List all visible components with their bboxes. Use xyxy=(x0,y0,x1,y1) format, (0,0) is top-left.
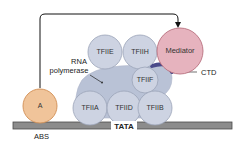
svg-text:TFIIE: TFIIE xyxy=(96,48,113,55)
svg-text:TFIIB: TFIIB xyxy=(146,104,163,111)
svg-text:TFIID: TFIID xyxy=(115,104,133,111)
tfiih-node: TFIIH xyxy=(123,35,157,69)
tfiid-node: TFIID xyxy=(107,91,141,125)
mediator-node: Mediator xyxy=(157,28,203,74)
svg-text:TFIIF: TFIIF xyxy=(137,76,154,83)
tfiib-node: TFIIB xyxy=(138,91,172,125)
rna-label-line2: polymerase xyxy=(50,66,89,75)
ctd-label: CTD xyxy=(201,68,217,77)
svg-text:TFIIA: TFIIA xyxy=(81,104,98,111)
svg-text:A: A xyxy=(38,102,43,109)
activator-node: A xyxy=(23,89,57,123)
transcription-diagram: TFIIE TFIIH Mediator TFIIF TFIIA TFIID T… xyxy=(0,0,244,144)
rna-label-line1: RNA xyxy=(71,57,87,66)
tfiif-node: TFIIF xyxy=(132,67,158,93)
svg-text:TATA: TATA xyxy=(114,122,134,131)
svg-text:Mediator: Mediator xyxy=(165,46,195,55)
tfiie-node: TFIIE xyxy=(88,35,122,69)
svg-text:TFIIH: TFIIH xyxy=(131,48,149,55)
tfiia-node: TFIIA xyxy=(73,91,107,125)
abs-label: ABS xyxy=(34,132,49,141)
tata-box: TATA xyxy=(111,121,137,131)
